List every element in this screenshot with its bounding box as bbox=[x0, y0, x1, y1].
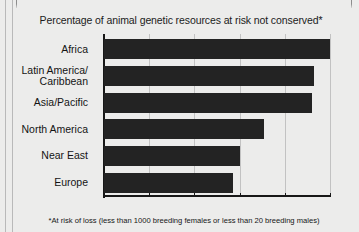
chart-title: Percentage of animal genetic resources a… bbox=[20, 14, 342, 26]
bar-row bbox=[104, 173, 330, 193]
category-labels: AfricaLatin America/ CaribbeanAsia/Pacif… bbox=[0, 36, 96, 196]
bar bbox=[104, 173, 233, 193]
chart-screenshot: Percentage of animal genetic resources a… bbox=[0, 0, 359, 232]
bar-row bbox=[104, 93, 330, 113]
bar-row bbox=[104, 119, 330, 139]
bar-row bbox=[104, 146, 330, 166]
category-label: Africa bbox=[0, 44, 88, 56]
gridline-100 bbox=[330, 34, 331, 196]
bar bbox=[104, 146, 240, 166]
bar bbox=[104, 39, 330, 59]
plot-area: 020406080100 AfricaLatin America/ Caribb… bbox=[104, 36, 330, 196]
bar bbox=[104, 66, 314, 86]
category-label: Europe bbox=[0, 177, 88, 189]
category-label: Near East bbox=[0, 150, 88, 162]
panel-frame-fill bbox=[17, 2, 351, 14]
bar bbox=[104, 93, 312, 113]
category-label: Asia/Pacific bbox=[0, 97, 88, 109]
category-label: North America bbox=[0, 124, 88, 136]
bar-series bbox=[104, 36, 330, 196]
x-tick-100 bbox=[330, 193, 331, 197]
chart-footnote: *At risk of loss (less than 1000 breedin… bbox=[16, 216, 352, 225]
bar bbox=[104, 119, 264, 139]
bar-row bbox=[104, 39, 330, 59]
category-label: Latin America/ Caribbean bbox=[0, 65, 88, 88]
bar-row bbox=[104, 66, 330, 86]
